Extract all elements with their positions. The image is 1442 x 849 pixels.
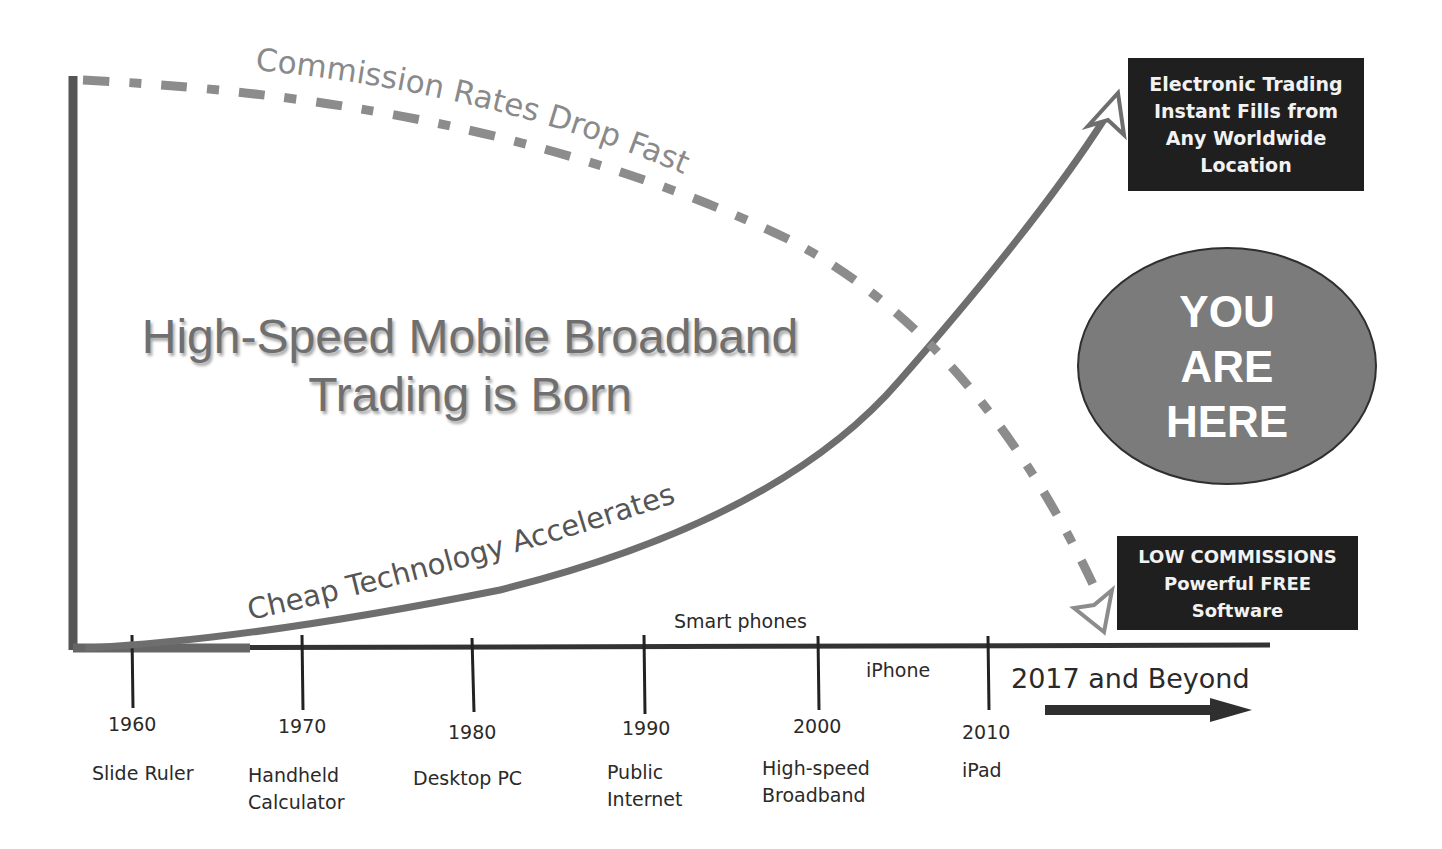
tick-label-line: Handheld (248, 762, 344, 789)
year-1990: 1990 (622, 717, 670, 739)
callout-line: Software (1117, 597, 1358, 624)
iphone-label: iPhone (866, 657, 930, 684)
badge-line: HERE (1166, 394, 1288, 449)
tick-label-line: Internet (607, 786, 682, 813)
year-1980: 1980 (448, 721, 496, 743)
callout-line: Instant Fills from (1128, 98, 1364, 125)
headline: High-Speed Mobile Broadband Trading is B… (105, 308, 835, 424)
year-1960: 1960 (108, 713, 156, 735)
timeline-axis (78, 645, 1270, 648)
low-commissions-callout: LOW COMMISSIONS Powerful FREE Software (1117, 536, 1358, 630)
badge-line: ARE (1181, 339, 1274, 394)
tick-label-line: iPad (962, 757, 1002, 784)
callout-line: Any Worldwide (1128, 125, 1364, 152)
headline-line-2: Trading is Born (105, 366, 835, 424)
tick-label-line: Slide Ruler (92, 760, 194, 787)
callout-line: Location (1128, 152, 1364, 179)
tick-label-line: Desktop PC (413, 765, 522, 792)
tick-label-slide-ruler: Slide Ruler (92, 760, 194, 787)
electronic-trading-callout: Electronic Trading Instant Fills from An… (1128, 58, 1364, 191)
tick-label-line: Broadband (762, 782, 870, 809)
commission-curve-label: Commission Rates Drop Fast (254, 41, 695, 181)
technology-arrowhead-icon (1088, 93, 1124, 135)
year-2010: 2010 (962, 721, 1010, 743)
headline-line-1: High-Speed Mobile Broadband (105, 308, 835, 366)
callout-line: Powerful FREE (1117, 570, 1358, 597)
year-1970: 1970 (278, 715, 326, 737)
tick-label-high-speed-broadband: High-speed Broadband (762, 755, 870, 809)
tick-label-ipad: iPad (962, 757, 1002, 784)
tick-label-handheld-calculator: Handheld Calculator (248, 762, 344, 816)
technology-curve-label: Cheap Technology Accelerates (244, 477, 679, 627)
year-2000: 2000 (793, 715, 841, 737)
tick-label-desktop-pc: Desktop PC (413, 765, 522, 792)
smart-phones-label: Smart phones (674, 608, 807, 635)
you-are-here-badge: YOU ARE HERE (1077, 247, 1377, 485)
commission-arrowhead-icon (1074, 590, 1112, 632)
callout-line: LOW COMMISSIONS (1117, 543, 1358, 570)
future-label: 2017 and Beyond (1011, 663, 1250, 694)
tick-label-line: Calculator (248, 789, 344, 816)
tick-label-public-internet: Public Internet (607, 759, 682, 813)
tick-label-line: High-speed (762, 755, 870, 782)
callout-line: Electronic Trading (1128, 71, 1364, 98)
tick-label-line: Public (607, 759, 682, 786)
badge-line: YOU (1179, 284, 1274, 339)
future-arrow-icon (1045, 698, 1252, 722)
